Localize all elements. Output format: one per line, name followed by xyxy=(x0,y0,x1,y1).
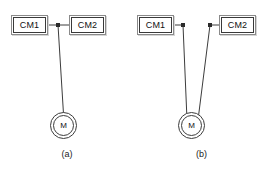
diagram-a: CM1 CM2 M (a) xyxy=(0,0,134,173)
motor-symbol-a[interactable]: M xyxy=(50,112,77,139)
cm2-box-b[interactable]: CM2 xyxy=(219,15,256,35)
cm1-box-a[interactable]: CM1 xyxy=(11,15,48,35)
junction-node-b-left xyxy=(181,23,185,27)
junction-node-a xyxy=(56,23,60,27)
caption-a: (a) xyxy=(0,150,134,159)
motor-inner-circle-b: M xyxy=(181,115,202,136)
motor-label-a: M xyxy=(60,122,67,130)
link-b-left-node-to-motor xyxy=(183,25,187,120)
caption-b: (b) xyxy=(134,150,269,159)
cm2-label-a: CM2 xyxy=(78,21,98,30)
figure-canvas: CM1 CM2 M (a) CM1 xyxy=(0,0,269,173)
cm1-box-b[interactable]: CM1 xyxy=(137,15,174,35)
cm1-label-b: CM1 xyxy=(146,21,166,30)
cm2-box-a[interactable]: CM2 xyxy=(69,15,106,35)
link-b-right-node-to-motor xyxy=(198,25,210,120)
diagram-b: CM1 CM2 M (b) xyxy=(134,0,269,173)
cm2-label-b: CM2 xyxy=(228,21,248,30)
cm1-label-a: CM1 xyxy=(20,21,40,30)
link-a-junction-to-motor xyxy=(58,25,64,114)
motor-symbol-b[interactable]: M xyxy=(178,112,205,139)
junction-node-b-right xyxy=(208,23,212,27)
motor-inner-circle-a: M xyxy=(53,115,74,136)
motor-label-b: M xyxy=(188,122,195,130)
